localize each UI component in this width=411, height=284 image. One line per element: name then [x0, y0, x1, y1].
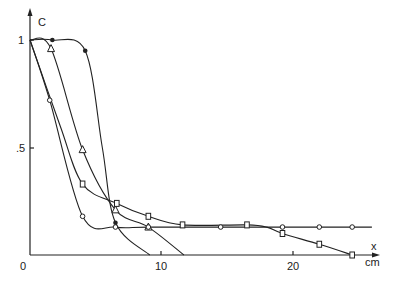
- y-axis-arrow-icon: [28, 8, 33, 16]
- open-square-marker-icon: [245, 222, 250, 228]
- filled-circle-marker-icon: [83, 48, 88, 53]
- open-square-marker-icon: [114, 200, 119, 206]
- open-circle-marker-icon: [80, 214, 85, 219]
- open-circle-marker-icon: [350, 225, 355, 230]
- curve-open-circles: [30, 40, 372, 229]
- y-tick-label-one: 1: [18, 34, 24, 46]
- origin-label: 0: [20, 260, 26, 272]
- open-square-marker-icon: [180, 222, 185, 228]
- x-axis-label: x: [371, 240, 377, 252]
- x-tick-label-10: 10: [155, 260, 167, 272]
- open-circle-marker-icon: [218, 225, 223, 230]
- open-triangle-marker-icon: [79, 146, 86, 153]
- x-tick-label-20: 20: [287, 260, 299, 272]
- y-axis-label: C: [38, 16, 46, 28]
- axes: [28, 8, 381, 258]
- filled-circle-marker-icon: [50, 38, 55, 43]
- concentration-chart: C 1 .5 0 10 20 x cm: [0, 0, 411, 284]
- open-circle-marker-icon: [113, 225, 118, 230]
- curve-squares: [30, 40, 352, 255]
- open-circle-marker-icon: [146, 225, 151, 230]
- open-square-marker-icon: [80, 181, 85, 187]
- open-triangle-marker-icon: [48, 45, 55, 52]
- open-square-marker-icon: [317, 241, 322, 247]
- axis-labels: C 1 .5 0 10 20 x cm: [16, 16, 380, 272]
- curve-triangles: [30, 38, 184, 255]
- open-circle-marker-icon: [280, 225, 285, 230]
- open-square-marker-icon: [280, 231, 285, 237]
- x-axis-unit: cm: [365, 256, 380, 268]
- y-tick-label-half: .5: [16, 142, 25, 154]
- curve-filled-circles: [30, 39, 150, 255]
- open-square-marker-icon: [350, 252, 355, 258]
- open-square-marker-icon: [146, 213, 151, 219]
- open-circle-marker-icon: [47, 98, 52, 103]
- open-circle-marker-icon: [317, 225, 322, 230]
- curves: [30, 38, 372, 255]
